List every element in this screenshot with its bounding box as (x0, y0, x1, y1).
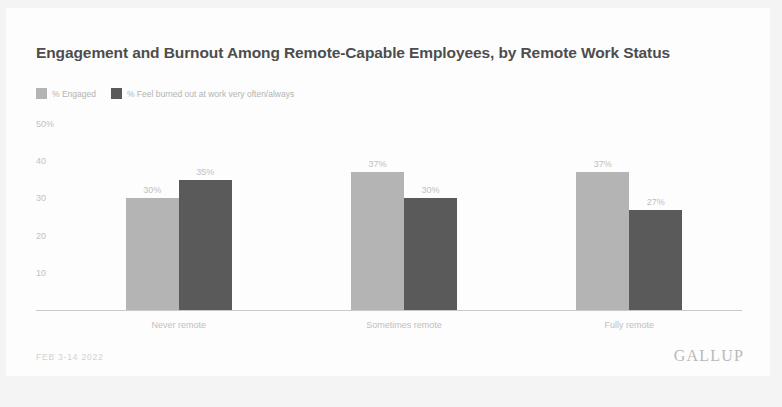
bar-group: 30%35% (66, 124, 291, 310)
bar-wrapper: 30% (404, 124, 457, 310)
bar[interactable] (629, 210, 682, 310)
y-axis-tick-label: 40 (36, 156, 70, 166)
chart-card: Engagement and Burnout Among Remote-Capa… (6, 8, 770, 376)
category-label: Fully remote (517, 320, 742, 330)
bar[interactable] (576, 172, 629, 310)
y-axis-tick-label: 50% (36, 119, 70, 129)
bar[interactable] (351, 172, 404, 310)
category-label: Sometimes remote (291, 320, 516, 330)
y-axis-tick-label: 30 (36, 193, 70, 203)
bar-value-label: 30% (421, 185, 439, 195)
legend-swatch-icon (36, 88, 47, 99)
legend-item[interactable]: % Engaged (36, 88, 96, 99)
gallup-logo: GALLUP (674, 347, 744, 365)
bar[interactable] (126, 198, 179, 310)
bar-value-label: 27% (647, 197, 665, 207)
legend-label: % Feel burned out at work very often/alw… (127, 89, 294, 99)
bar-value-label: 37% (594, 159, 612, 169)
bar[interactable] (179, 180, 232, 310)
bar-value-label: 30% (143, 185, 161, 195)
category-labels: Never remoteSometimes remoteFully remote (66, 320, 742, 330)
y-axis-tick-label: 10 (36, 268, 70, 278)
bar-group: 37%30% (291, 124, 516, 310)
bar-wrapper: 37% (351, 124, 404, 310)
page-title: Engagement and Burnout Among Remote-Capa… (36, 44, 670, 62)
bar-wrapper: 37% (576, 124, 629, 310)
bar-wrapper: 27% (629, 124, 682, 310)
bar-value-label: 37% (368, 159, 386, 169)
x-axis-line (36, 310, 742, 311)
bar-value-label: 35% (196, 167, 214, 177)
legend-item[interactable]: % Feel burned out at work very often/alw… (111, 88, 294, 99)
legend-swatch-icon (111, 88, 122, 99)
bar-wrapper: 35% (179, 124, 232, 310)
chart-page: Engagement and Burnout Among Remote-Capa… (0, 0, 782, 407)
bar-groups: 30%35%37%30%37%27% (66, 124, 742, 310)
bar-group: 37%27% (517, 124, 742, 310)
chart-legend: % Engaged% Feel burned out at work very … (36, 88, 302, 99)
legend-label: % Engaged (52, 89, 96, 99)
category-label: Never remote (66, 320, 291, 330)
bar-wrapper: 30% (126, 124, 179, 310)
y-axis-tick-label: 20 (36, 231, 70, 241)
bar[interactable] (404, 198, 457, 310)
survey-date: FEB 3-14 2022 (36, 352, 104, 362)
